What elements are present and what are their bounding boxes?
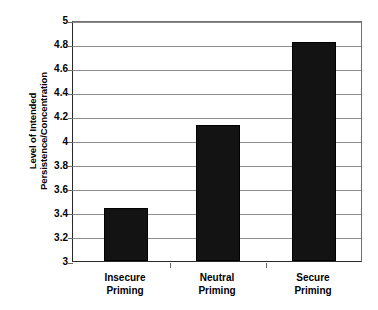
x-axis-label-2: NeutralPriming	[167, 272, 267, 297]
x-axis-label-1-line-1: Insecure	[75, 272, 175, 285]
x-axis-tick-mark	[170, 263, 171, 268]
y-axis-tick-label: 4.8	[40, 40, 68, 50]
y-axis-tick-label: 4.2	[40, 112, 68, 122]
x-axis-label-3: SecurePriming	[263, 272, 363, 297]
bar-3	[292, 42, 336, 261]
y-axis-tick-label: 4.4	[40, 88, 68, 98]
y-axis-tick-mark	[68, 166, 73, 167]
y-axis-tick-mark	[68, 263, 73, 264]
y-axis-tick-labels: 33.23.43.63.844.24.44.64.85	[40, 0, 68, 310]
y-axis-tick-label: 3.4	[40, 209, 68, 219]
y-axis-tick-label: 5	[40, 16, 68, 26]
y-axis-tick-label: 3.2	[40, 233, 68, 243]
x-axis-label-1-line-2: Priming	[75, 285, 175, 298]
y-axis-tick-label: 3.6	[40, 185, 68, 195]
y-axis-tick-mark	[68, 22, 73, 23]
y-axis-tick-mark	[68, 214, 73, 215]
y-axis-tick-label: 4	[40, 137, 68, 147]
y-axis-tick-mark	[68, 118, 73, 119]
x-axis-label-3-line-2: Priming	[263, 285, 363, 298]
x-axis-tick-mark	[266, 263, 267, 268]
y-axis-tick-mark	[68, 238, 73, 239]
y-axis-tick-label: 3	[40, 257, 68, 267]
x-axis-label-3-line-1: Secure	[263, 272, 363, 285]
y-axis-tick-mark	[68, 94, 73, 95]
bar-2	[196, 125, 240, 261]
y-axis-tick-mark	[68, 190, 73, 191]
y-axis-tick-mark	[68, 142, 73, 143]
gridline	[73, 22, 361, 23]
y-axis-tick-mark	[68, 70, 73, 71]
x-axis-label-1: InsecurePriming	[75, 272, 175, 297]
y-axis-tick-label: 4.6	[40, 64, 68, 74]
y-axis-tick-label: 3.8	[40, 161, 68, 171]
plot-area	[72, 21, 362, 262]
y-axis-tick-mark	[68, 46, 73, 47]
x-axis-label-2-line-2: Priming	[167, 285, 267, 298]
bar-chart-figure: Level of Intended Persistence/Concentrat…	[0, 0, 378, 310]
bar-1	[104, 208, 148, 261]
x-axis-label-2-line-1: Neutral	[167, 272, 267, 285]
